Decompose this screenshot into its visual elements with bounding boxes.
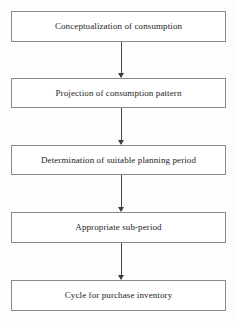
flowchart-arrow-3 [117,175,126,212]
flowchart-diagram: Conceptualization of consumption Project… [0,0,236,322]
arrow-stem [121,175,122,207]
arrow-stem [121,243,122,275]
flowchart-node-determination-of-suitable-planning-period: Determination of suitable planning perio… [11,145,226,175]
flowchart-node-label: Appropriate sub-period [71,222,165,233]
flowchart-node-label: Cycle for purchase inventory [61,290,177,301]
arrow-stem [121,42,122,73]
flowchart-arrow-2 [117,108,126,145]
arrow-stem [121,108,122,140]
flowchart-node-projection-of-consumption-pattern: Projection of consumption pattern [11,78,226,108]
flowchart-arrow-4 [117,243,126,280]
flowchart-arrow-1 [117,42,126,78]
flowchart-node-conceptualization-of-consumption: Conceptualization of consumption [11,11,226,42]
flowchart-node-cycle-for-purchase-inventory: Cycle for purchase inventory [11,280,226,311]
flowchart-node-appropriate-sub-period: Appropriate sub-period [11,212,226,243]
flowchart-node-label: Projection of consumption pattern [51,88,185,99]
flowchart-node-label: Determination of suitable planning perio… [37,155,200,166]
flowchart-node-label: Conceptualization of consumption [51,21,186,32]
